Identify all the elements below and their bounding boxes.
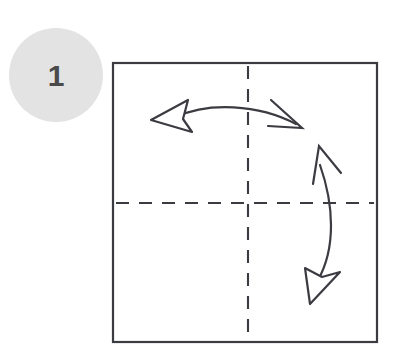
diagram-canvas: 1	[0, 0, 398, 360]
step-number-badge: 1	[9, 28, 103, 122]
paper-outline	[113, 63, 377, 342]
square-paper-sheet	[113, 63, 377, 342]
step-number-label: 1	[48, 59, 65, 92]
origami-step-diagram: 1	[0, 0, 398, 360]
